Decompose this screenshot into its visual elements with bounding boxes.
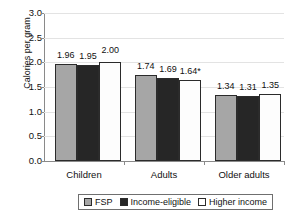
bar: [259, 94, 281, 161]
x-axis-category-label: Adults: [124, 170, 204, 180]
bar-value-label: 1.35: [255, 81, 285, 90]
chart-legend: FSPIncome-eligibleHigher income: [78, 194, 273, 210]
x-axis-tick-mark: [284, 161, 285, 165]
gridline: [44, 13, 284, 14]
plot-area: 1.961.952.001.741.691.64*1.341.311.35: [44, 13, 284, 161]
y-axis-tick-mark: [41, 38, 44, 39]
x-axis-category-label: Children: [44, 170, 124, 180]
y-axis-tick-mark: [41, 161, 44, 162]
bar: [215, 95, 237, 161]
y-axis-tick-mark: [41, 87, 44, 88]
y-axis-tick-label: 2.5: [16, 33, 42, 43]
x-axis-category-labels: ChildrenAdultsOlder adults: [44, 170, 285, 184]
bar: [135, 75, 157, 161]
bar-value-label: 2.00: [95, 46, 125, 55]
legend-item[interactable]: Higher income: [198, 198, 267, 207]
y-axis-tick-label: 1.5: [16, 82, 42, 92]
legend-swatch-icon: [120, 198, 128, 206]
y-axis-tick-labels: 3.02.52.01.51.00.50.0: [12, 0, 42, 217]
x-axis-category-label: Older adults: [204, 170, 284, 180]
gridline: [44, 38, 284, 39]
legend-item[interactable]: Income-eligible: [120, 198, 192, 207]
bar: [77, 65, 99, 161]
y-axis-tick-label: 3.0: [16, 8, 42, 18]
legend-item[interactable]: FSP: [84, 198, 113, 207]
bar: [237, 96, 259, 161]
legend-label: Higher income: [209, 198, 267, 207]
y-axis-tick-mark: [41, 112, 44, 113]
y-axis-tick-label: 2.0: [16, 57, 42, 67]
legend-label: FSP: [95, 198, 113, 207]
legend-swatch-icon: [198, 198, 206, 206]
y-axis-tick-label: 0.5: [16, 131, 42, 141]
y-axis-tick-label: 0.0: [16, 156, 42, 166]
y-axis-tick-mark: [41, 13, 44, 14]
legend-swatch-icon: [84, 198, 92, 206]
y-axis-tick-mark: [41, 62, 44, 63]
bar: [99, 62, 121, 161]
bar: [157, 78, 179, 161]
bar-chart: Calories per gram 3.02.52.01.51.00.50.0 …: [0, 0, 293, 217]
x-axis-tick-mark: [124, 161, 125, 165]
legend-label: Income-eligible: [131, 198, 192, 207]
y-axis-tick-mark: [41, 136, 44, 137]
x-axis-tick-mark: [204, 161, 205, 165]
bar: [179, 80, 201, 161]
x-axis-line: [44, 161, 285, 162]
bar: [55, 64, 77, 161]
y-axis-tick-label: 1.0: [16, 107, 42, 117]
bar-value-label: 1.64*: [175, 67, 205, 76]
